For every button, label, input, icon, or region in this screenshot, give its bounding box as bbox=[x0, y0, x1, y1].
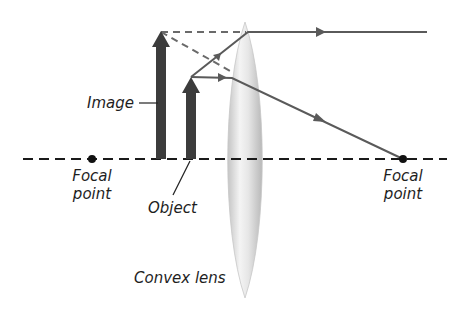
image-label: Image bbox=[87, 94, 134, 112]
focal-point-right-label-line2: point bbox=[383, 185, 423, 203]
focal-point-left-label-line1: Focal bbox=[72, 167, 112, 185]
focal-point-right bbox=[399, 155, 407, 163]
ray-arrowhead-icon bbox=[218, 73, 227, 82]
focal-point-left-label-line2: point bbox=[72, 185, 112, 203]
ray-arrowhead-icon bbox=[313, 113, 326, 122]
object-label: Object bbox=[148, 199, 198, 217]
ray-arrowhead-icon bbox=[316, 27, 326, 37]
ray-parallel-refracted bbox=[191, 77, 403, 159]
focal-point-right-label-line1: Focal bbox=[383, 167, 423, 185]
object-arrow-shaft bbox=[186, 90, 196, 159]
convex-lens-diagram: Image Object Convex lens Focal point Foc… bbox=[0, 0, 459, 316]
focal-point-left bbox=[88, 155, 96, 163]
image-arrow-shaft bbox=[156, 44, 166, 159]
lens-label: Convex lens bbox=[134, 269, 226, 287]
object-leader-line bbox=[173, 161, 190, 195]
object-arrowhead-icon bbox=[182, 77, 200, 93]
image-arrowhead-icon bbox=[152, 31, 170, 47]
ray-to-lens-then-parallel bbox=[191, 32, 427, 77]
